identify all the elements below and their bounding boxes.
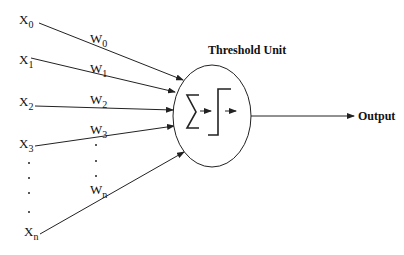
input-label-xn: Xn: [24, 225, 38, 242]
input-label-x0: X0: [19, 13, 33, 30]
input-label-x2: X2: [19, 95, 33, 112]
ellipsis-dot: [28, 192, 30, 194]
ellipsis-dot: [28, 177, 30, 179]
ellipsis-dot: [28, 162, 30, 164]
threshold-unit-node: [173, 65, 251, 167]
ellipsis-dot: [95, 160, 97, 162]
diagram-lines: [0, 0, 404, 255]
input-label-x3: X3: [19, 137, 33, 154]
weight-label-w3: W3: [90, 123, 107, 140]
weight-label-w2: W2: [90, 93, 107, 110]
weight-label-w1: W1: [90, 62, 107, 79]
ellipsis-dot: [95, 175, 97, 177]
edge-x0: [39, 23, 183, 80]
weight-label-w0: W0: [90, 32, 107, 49]
ellipsis-dot: [95, 144, 97, 146]
output-label: Output: [358, 110, 395, 122]
ellipsis-dot: [28, 211, 30, 213]
input-label-x1: X1: [19, 53, 33, 70]
edge-xn: [40, 152, 184, 234]
weight-label-wn: Wn: [90, 183, 107, 200]
threshold-unit-title: Threshold Unit: [208, 44, 286, 56]
perceptron-diagram: X0 X1 X2 X3 Xn W0 W1 W2 W3 Wn Threshold …: [0, 0, 404, 255]
